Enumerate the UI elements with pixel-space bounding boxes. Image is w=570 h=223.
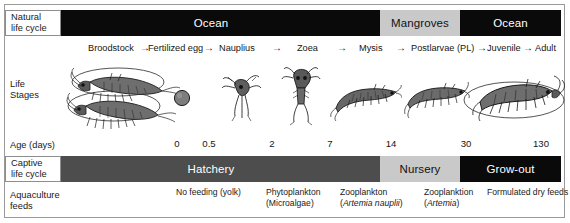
feed-item-zooplankton-artemia: Zooplanktion (Artemia) xyxy=(424,187,473,208)
stage-arrow-icon: → xyxy=(337,43,347,53)
natural-segment-ocean-right: Ocean xyxy=(460,10,561,36)
stage-name-postlarvae: Postlarvae (PL) xyxy=(411,43,474,53)
fertilized-egg-illustration xyxy=(172,88,192,108)
captive-segment-grow-out: Grow-out xyxy=(460,156,561,182)
feed-line1: No feeding (yolk) xyxy=(176,187,241,198)
age-tick: 30 xyxy=(461,138,472,149)
postlarvae-shrimp-illustration xyxy=(404,80,470,122)
feed-item-no-feeding: No feeding (yolk) xyxy=(176,187,241,198)
age-tick: 0.5 xyxy=(202,138,215,149)
stage-name-adult: Adult xyxy=(535,43,556,53)
stage-arrow-icon: → xyxy=(272,43,282,53)
natural-label-line2: life cycle xyxy=(11,23,60,34)
broodstock-shrimp-pair-illustration xyxy=(62,62,180,134)
stage-name-mysis: Mysis xyxy=(359,43,382,53)
stage-name-zoea: Zoea xyxy=(297,43,318,53)
age-tick: 0 xyxy=(174,138,179,149)
stage-name-broodstock: Broodstock xyxy=(88,43,134,53)
mysis-larva-illustration xyxy=(330,82,402,122)
natural-label-line1: Natural xyxy=(11,12,60,23)
stage-arrow-icon: → xyxy=(523,43,533,53)
captive-segment-label: Grow-out xyxy=(486,163,534,175)
feed-line2: (Artemia) xyxy=(424,198,473,209)
life-stage-names-row: Broodstock → Fertilized egg → Nauplius →… xyxy=(0,43,570,58)
natural-segment-ocean-left: Ocean xyxy=(42,10,380,36)
feed-paren-close: ) xyxy=(456,198,459,208)
age-tick: 7 xyxy=(327,138,332,149)
stage-arrow-icon: → xyxy=(396,43,406,53)
captive-segment-label: Nursery xyxy=(400,163,441,175)
age-axis-ticks: 0 0.5 2 7 14 30 130 xyxy=(0,138,570,152)
captive-life-cycle-label-box: Captive life cycle xyxy=(5,156,61,182)
stage-name-fertilized-egg: Fertilized egg xyxy=(148,43,203,53)
natural-segment-label: Mangroves xyxy=(391,17,449,29)
captive-segment-label: Hatchery xyxy=(188,163,235,175)
life-stage-illustrations xyxy=(0,60,570,138)
nauplius-larva-illustration xyxy=(222,72,262,124)
feed-item-formulated-dry-feeds: Formulated dry feeds xyxy=(487,187,568,198)
feed-species-italic: Artemia xyxy=(427,198,457,208)
captive-segment-hatchery: Hatchery xyxy=(42,156,380,182)
aquaculture-feeds-row: No feeding (yolk) Phytoplankton (Microal… xyxy=(0,187,570,217)
feed-paren-close: ) xyxy=(400,198,403,208)
stage-arrow-icon: → xyxy=(477,43,487,53)
natural-life-cycle-label-box: Natural life cycle xyxy=(5,10,61,36)
feed-line1: Zooplankton xyxy=(340,187,403,198)
natural-segment-label: Ocean xyxy=(194,17,228,29)
age-tick: 130 xyxy=(533,138,549,149)
stage-arrow-icon: → xyxy=(204,43,214,53)
adult-shrimp-illustration xyxy=(462,60,566,134)
feed-species-italic: Artemia nauplii xyxy=(343,198,400,208)
feed-item-zooplankton-nauplii: Zooplankton (Artemia nauplii) xyxy=(340,187,403,208)
natural-segment-mangroves: Mangroves xyxy=(380,10,460,36)
shrimp-life-cycle-figure: Ocean Mangroves Ocean Natural life cycle… xyxy=(0,0,570,223)
natural-segment-label: Ocean xyxy=(493,17,527,29)
stage-name-nauplius: Nauplius xyxy=(219,43,255,53)
feed-line1: Formulated dry feeds xyxy=(487,187,568,198)
age-tick: 14 xyxy=(386,138,397,149)
captive-label-line1: Captive xyxy=(11,158,60,169)
feed-line1: Phytoplankton xyxy=(266,187,320,198)
captive-label-line2: life cycle xyxy=(11,169,60,180)
zoea-larva-illustration xyxy=(281,66,321,126)
captive-segment-nursery: Nursery xyxy=(380,156,460,182)
stage-name-juvenile: Juvenile xyxy=(487,43,521,53)
feed-line2: (Microalgae) xyxy=(266,198,320,209)
feed-line1: Zooplanktion xyxy=(424,187,473,198)
feed-line2: (Artemia nauplii) xyxy=(340,198,403,209)
age-tick: 2 xyxy=(269,138,274,149)
feed-item-phytoplankton: Phytoplankton (Microalgae) xyxy=(266,187,320,208)
